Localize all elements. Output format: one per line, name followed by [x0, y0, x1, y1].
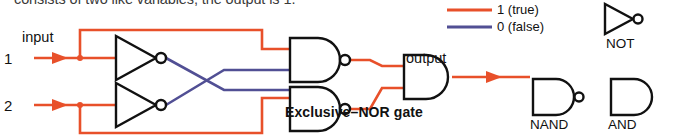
input-2-label: 2	[4, 97, 12, 114]
legend-label-false: 0 (false)	[497, 19, 544, 34]
key-nand-gate	[533, 79, 584, 115]
not-gate-bottom-bubble	[156, 100, 166, 110]
wires-true	[34, 30, 530, 133]
not-gate-bottom-triangle	[116, 83, 156, 127]
circuit-figure: consists of two like variables, the outp…	[0, 0, 676, 137]
junction-dot-input2	[77, 102, 83, 108]
nand-gate-top-bubble	[340, 55, 350, 65]
not-gate-top-triangle	[116, 36, 156, 80]
not-gate-top	[116, 36, 166, 80]
wire-nand-top-out	[345, 60, 404, 66]
nand-gate-top-body	[290, 38, 340, 82]
key-label-and: AND	[608, 117, 637, 132]
input-1-label: 1	[4, 50, 12, 67]
key-nand-bubble	[575, 93, 584, 102]
key-and-body	[611, 79, 652, 115]
arrowhead-output	[486, 71, 502, 83]
legend-label-true: 1 (true)	[497, 2, 539, 17]
key-not-triangle	[605, 4, 633, 34]
arrowhead-input1	[52, 52, 68, 64]
key-not-bubble	[634, 15, 643, 24]
gate-key-symbols	[533, 4, 652, 115]
key-nand-body	[533, 79, 574, 115]
wire-in2-bottom-branch	[80, 98, 290, 133]
nand-gate-top	[290, 38, 350, 82]
arrowhead-input2	[52, 99, 68, 111]
wire-in1-top-branch	[80, 30, 290, 58]
legend-swatches	[447, 10, 492, 27]
key-label-nand: NAND	[530, 117, 568, 132]
wire-not-bot-cross	[166, 70, 290, 105]
circuit-title-label: Exclusive–NOR gate	[285, 104, 423, 120]
key-not-gate	[605, 4, 643, 34]
wire-not-top-cross	[166, 58, 290, 90]
output-label: output	[406, 50, 446, 66]
key-label-not: NOT	[606, 36, 635, 51]
junction-dot-input1	[77, 55, 83, 61]
not-gate-top-bubble	[156, 53, 166, 63]
not-gate-bottom	[116, 83, 166, 127]
key-and-gate	[611, 79, 652, 115]
input-group-label: input	[22, 29, 53, 45]
